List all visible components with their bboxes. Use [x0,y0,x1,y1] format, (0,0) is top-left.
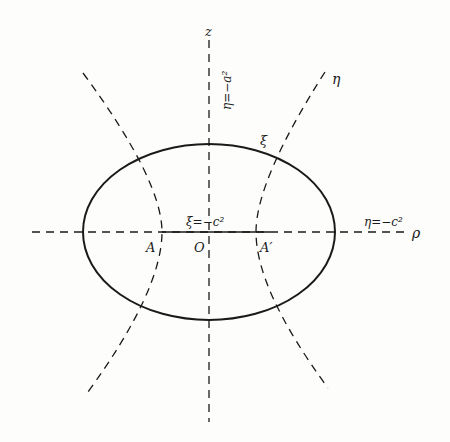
eta-hyperbola-right [256,72,328,388]
focus-left-label: A [145,240,155,255]
eta-curve-label: η [332,71,341,87]
xi-curve-label: ξ [260,133,268,148]
focus-right-label: A′ [259,240,272,255]
origin-label: O [194,240,205,255]
eta-top-label: η=−a² [220,71,234,110]
xi-focal-label: ξ=−c² [186,215,224,229]
eta-axis-label: η=−c² [364,215,403,229]
rho-axis-label: ρ [411,225,421,241]
coordinate-diagram: z ρ η=−a² η ξ ξ=−c² η=−c² O A A′ [0,0,450,442]
z-axis-label: z [204,24,212,39]
